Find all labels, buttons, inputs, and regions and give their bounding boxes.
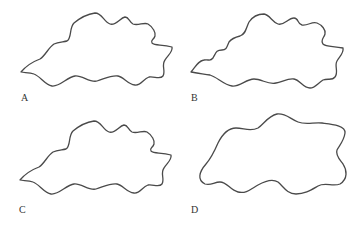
- figure-canvas: [0, 0, 362, 229]
- shape-d: [200, 114, 346, 194]
- shape-c: [20, 121, 171, 194]
- shape-a: [21, 13, 172, 86]
- panel-label-d: D: [191, 204, 198, 215]
- panel-label-a: A: [21, 92, 28, 103]
- panel-label-c: C: [19, 204, 26, 215]
- shape-b: [191, 14, 343, 88]
- panel-label-b: B: [191, 92, 198, 103]
